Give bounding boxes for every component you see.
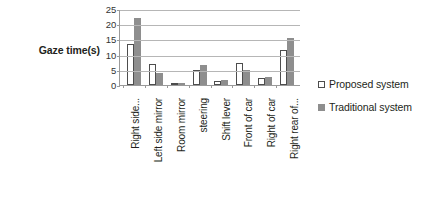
x-tick <box>232 85 233 88</box>
bar-groups <box>120 10 300 85</box>
y-axis-title: Gaze time(s) <box>14 44 100 56</box>
x-axis-tick-labels: Right side...Left side mirrorRoom mirror… <box>119 96 300 196</box>
bar-group <box>167 10 189 85</box>
x-tick <box>254 85 255 88</box>
bar-group <box>254 10 276 85</box>
x-label-cell: Front of car <box>232 96 255 196</box>
gridline-25 <box>120 10 300 11</box>
bar-proposed[interactable] <box>149 64 156 85</box>
bar-group <box>145 10 167 85</box>
x-tick-label: Right side... <box>130 98 141 149</box>
bar-traditional[interactable] <box>156 73 163 85</box>
x-tick-label: Front of car <box>243 98 254 147</box>
x-tick-label: steering <box>198 98 209 132</box>
gridline-20 <box>120 25 300 26</box>
legend-item[interactable]: Proposed system <box>318 78 412 90</box>
x-tick <box>145 85 146 88</box>
plot-area: 0510152025 <box>96 10 300 94</box>
y-axis-tick-labels: 0510152025 <box>96 10 116 86</box>
legend-item[interactable]: Traditional system <box>318 101 412 113</box>
bar-proposed[interactable] <box>127 44 134 85</box>
chart-figure: Gaze time(s) 0510152025 Right side...Lef… <box>0 0 444 198</box>
bar-traditional[interactable] <box>243 70 250 85</box>
x-label-cell: Right rear of... <box>277 96 300 196</box>
bar-traditional[interactable] <box>265 77 272 85</box>
open-square-icon <box>318 81 325 88</box>
x-tick <box>276 85 277 88</box>
legend-item-label: Traditional system <box>329 101 412 113</box>
x-tick-label: Left side mirror <box>153 98 164 162</box>
bar-proposed[interactable] <box>258 78 265 85</box>
bar-group <box>123 10 145 85</box>
bar-traditional[interactable] <box>221 80 228 85</box>
y-tick-15 <box>117 40 120 41</box>
y-tick-label-10: 10 <box>106 51 116 61</box>
gridline-5 <box>120 71 300 72</box>
bar-traditional[interactable] <box>200 65 207 85</box>
x-tick-label: Room mirror <box>176 98 187 152</box>
y-tick-0 <box>117 86 120 87</box>
bar-group <box>211 10 233 85</box>
plot-frame <box>119 10 300 86</box>
y-tick-5 <box>117 71 120 72</box>
x-tick <box>189 85 190 88</box>
bar-proposed[interactable] <box>193 70 200 85</box>
x-label-cell: Right of car <box>255 96 278 196</box>
bar-group <box>232 10 254 85</box>
bar-traditional[interactable] <box>287 38 294 85</box>
filled-square-icon <box>318 104 325 111</box>
x-tick <box>211 85 212 88</box>
x-label-cell: Shift lever <box>210 96 233 196</box>
bar-group <box>189 10 211 85</box>
y-tick-label-20: 20 <box>106 20 116 30</box>
chart-legend: Proposed systemTraditional system <box>318 78 412 113</box>
x-tick <box>167 85 168 88</box>
bar-proposed[interactable] <box>236 63 243 85</box>
bar-group <box>276 10 298 85</box>
y-tick-label-25: 25 <box>106 5 116 15</box>
gridline-15 <box>120 40 300 41</box>
x-tick-label: Right of car <box>266 98 277 147</box>
x-label-cell: Left side mirror <box>142 96 165 196</box>
y-tick-label-5: 5 <box>111 66 116 76</box>
legend-item-label: Proposed system <box>329 78 409 90</box>
bar-traditional[interactable] <box>134 18 141 85</box>
y-tick-20 <box>117 25 120 26</box>
y-tick-label-0: 0 <box>111 81 116 91</box>
bar-proposed[interactable] <box>171 83 178 85</box>
x-label-cell: Room mirror <box>164 96 187 196</box>
x-label-cell: steering <box>187 96 210 196</box>
x-tick-label: Shift lever <box>221 98 232 141</box>
x-label-cell: Right side... <box>119 96 142 196</box>
y-tick-10 <box>117 56 120 57</box>
bar-traditional[interactable] <box>178 83 185 85</box>
gridline-10 <box>120 56 300 57</box>
bar-proposed[interactable] <box>214 81 221 85</box>
x-tick-label: Right rear of... <box>289 98 300 159</box>
y-tick-25 <box>117 10 120 11</box>
y-tick-label-15: 15 <box>106 36 116 46</box>
x-tick <box>123 85 124 88</box>
